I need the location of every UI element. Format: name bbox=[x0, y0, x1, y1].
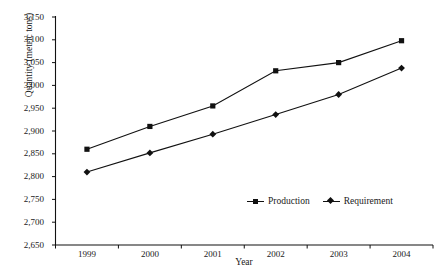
legend-label-production: Production bbox=[268, 196, 310, 206]
data-point-marker bbox=[146, 149, 153, 156]
y-tick-label: 2,850 bbox=[8, 149, 44, 158]
data-point-marker bbox=[273, 68, 278, 73]
legend-diamond-marker-icon bbox=[323, 197, 340, 206]
series-line-requirement bbox=[87, 68, 402, 172]
legend-label-requirement: Requirement bbox=[344, 196, 393, 206]
y-tick-label: 3,050 bbox=[8, 58, 44, 67]
y-tick-label: 2,700 bbox=[8, 218, 44, 227]
data-point-marker bbox=[84, 169, 91, 176]
y-tick-label: 2,800 bbox=[8, 172, 44, 181]
data-point-marker bbox=[209, 131, 216, 138]
data-point-marker bbox=[210, 103, 215, 108]
data-point-marker bbox=[272, 111, 279, 118]
y-tick-label: 3,150 bbox=[8, 13, 44, 22]
y-tick-label: 2,650 bbox=[8, 241, 44, 250]
y-tick-label: 3,000 bbox=[8, 81, 44, 90]
y-tick-label: 2,950 bbox=[8, 104, 44, 113]
series-line-production bbox=[87, 41, 402, 150]
data-point-marker bbox=[398, 65, 405, 72]
legend-item-requirement: Requirement bbox=[323, 196, 393, 206]
y-tick-label: 3,100 bbox=[8, 35, 44, 44]
data-point-marker bbox=[336, 60, 341, 65]
y-tick-label: 2,900 bbox=[8, 127, 44, 136]
chart-legend: Production Requirement bbox=[247, 196, 393, 206]
legend-square-marker-icon bbox=[247, 197, 264, 206]
data-point-marker bbox=[335, 91, 342, 98]
data-point-marker bbox=[84, 147, 89, 152]
plot-area bbox=[0, 0, 434, 273]
data-point-marker bbox=[147, 124, 152, 129]
x-axis-title: Year bbox=[55, 257, 433, 267]
line-chart: Quantity (metric tons) 2,6502,7002,7502,… bbox=[0, 0, 434, 273]
legend-item-production: Production bbox=[247, 196, 310, 206]
data-point-marker bbox=[399, 38, 404, 43]
y-tick-label: 2,750 bbox=[8, 195, 44, 204]
